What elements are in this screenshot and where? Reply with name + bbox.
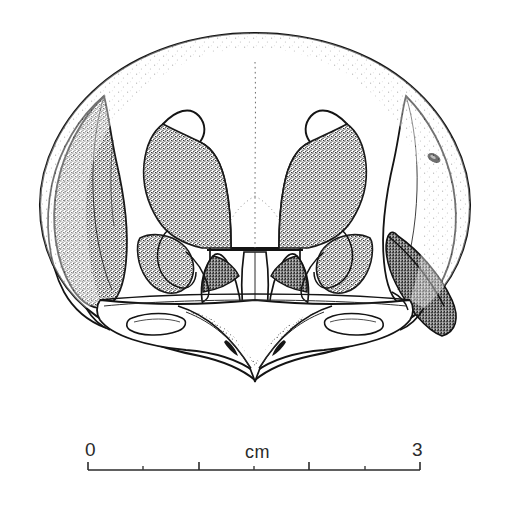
left-palatal-foramen: [127, 314, 186, 336]
figure-root: 0 cm 3: [0, 0, 510, 509]
skull-illustration: [0, 0, 510, 400]
right-palatal-foramen-group: [325, 314, 384, 336]
scale-end-label: 3: [412, 439, 423, 461]
scale-unit-label: cm: [245, 442, 270, 463]
scale-start-label: 0: [85, 439, 96, 461]
scale-bar: 0 cm 3: [0, 400, 510, 509]
left-palatal-foramen-group: [127, 314, 186, 336]
right-palatal-foramen: [325, 314, 384, 336]
